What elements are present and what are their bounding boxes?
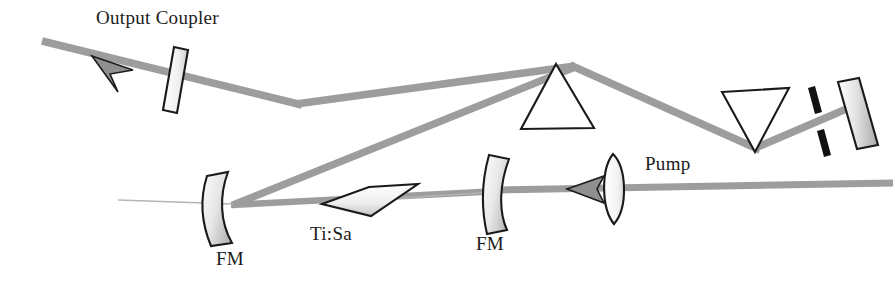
slit-aperture-bar-bottom[interactable] (817, 129, 831, 157)
folding-mirror-right[interactable] (483, 155, 509, 234)
beam-pump (500, 183, 893, 190)
label-fm-left: FM (216, 248, 244, 269)
output-coupler-mirror[interactable] (163, 47, 188, 113)
label-fm-right: FM (476, 233, 504, 254)
pump-lens[interactable] (604, 154, 624, 224)
ti-sapphire-crystal[interactable] (322, 184, 418, 216)
folding-mirror-left[interactable] (202, 172, 232, 246)
slit-aperture-bar-top[interactable] (808, 86, 822, 114)
label-pump: Pump (645, 153, 691, 174)
optical-diagram: Output Coupler FM Ti:Sa FM Pump (0, 0, 895, 287)
label-ti-sa: Ti:Sa (310, 223, 352, 244)
optics-canvas: Output Coupler FM Ti:Sa FM Pump (0, 0, 895, 287)
label-output-coupler: Output Coupler (96, 7, 219, 28)
prism-two[interactable] (722, 88, 789, 152)
